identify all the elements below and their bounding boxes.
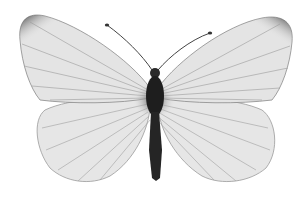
abdomen: [149, 112, 162, 181]
left-antenna-club: [105, 23, 109, 26]
butterfly-illustration: [0, 0, 305, 197]
image-canvas: [0, 0, 305, 197]
thorax: [146, 76, 164, 116]
right-antenna-club: [208, 31, 212, 34]
